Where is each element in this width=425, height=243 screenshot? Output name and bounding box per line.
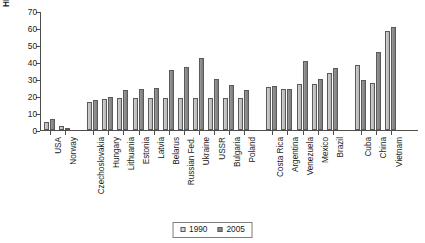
x-tick-mark <box>318 131 319 135</box>
bar-2005 <box>361 80 366 130</box>
bar-1990 <box>44 122 49 130</box>
x-axis-label: Mexico <box>321 137 330 163</box>
bar-2005 <box>376 52 381 130</box>
bar-2005 <box>287 89 292 130</box>
x-tick-mark <box>287 131 288 135</box>
legend-swatch-icon-2005 <box>218 227 223 232</box>
x-tick-mark <box>184 131 185 135</box>
bar-2005 <box>214 79 219 130</box>
bar-1990 <box>223 98 228 130</box>
bar-2005 <box>50 119 55 130</box>
x-axis-label: Argentina <box>291 137 300 172</box>
bar-2005 <box>184 67 189 130</box>
x-axis-label: Hungary <box>112 137 121 168</box>
bar-pair <box>281 12 296 130</box>
bar-pair <box>59 12 74 130</box>
x-axis-label: Ukraine <box>202 137 211 165</box>
bar-pair <box>297 12 312 130</box>
legend-item-1990: 1990 <box>180 225 207 234</box>
bar-pair <box>355 12 370 130</box>
bar-2005 <box>272 86 277 130</box>
plot-area: 010203040506070 <box>40 12 418 131</box>
bar-pair <box>133 12 148 130</box>
bar-pair <box>223 12 238 130</box>
x-tick-mark <box>93 131 94 135</box>
y-tick-label: 70 <box>28 8 37 16</box>
x-tick-mark <box>123 131 124 135</box>
bar-pair <box>385 12 400 130</box>
bar-pair <box>163 12 178 130</box>
x-tick-mark <box>272 131 273 135</box>
bar-2005 <box>391 27 396 130</box>
x-tick-mark <box>303 131 304 135</box>
x-axis-label: Vietnam <box>395 137 404 167</box>
bar-1990 <box>178 98 183 130</box>
x-axis-ticks <box>40 131 418 136</box>
bar-1990 <box>312 84 317 130</box>
x-tick-mark <box>391 131 392 135</box>
bar-1990 <box>163 98 168 130</box>
x-tick-mark <box>214 131 215 135</box>
y-tick-label: 10 <box>28 110 37 118</box>
x-tick-mark <box>169 131 170 135</box>
bar-series-container <box>41 12 418 130</box>
y-tick-label: 0 <box>32 127 37 135</box>
bar-1990 <box>385 31 390 130</box>
bar-pair <box>266 12 281 130</box>
bar-pair <box>87 12 102 130</box>
legend-label-1990: 1990 <box>189 225 207 234</box>
bar-1990 <box>148 98 153 130</box>
bar-2005 <box>123 90 128 130</box>
y-tick-label: 40 <box>28 59 37 67</box>
bar-pair <box>178 12 193 130</box>
bar-2005 <box>93 100 98 130</box>
x-axis-label: Lithuania <box>127 137 136 170</box>
y-tick-label: 60 <box>28 25 37 33</box>
chart-legend: 1990 2005 <box>172 222 253 238</box>
bar-1990 <box>102 99 107 130</box>
y-axis-title: HDI adjusted ratio <box>1 0 13 32</box>
x-tick-mark <box>139 131 140 135</box>
x-axis-label: USA <box>54 137 63 154</box>
bar-pair <box>193 12 208 130</box>
x-tick-mark <box>361 131 362 135</box>
legend-label-2005: 2005 <box>227 225 245 234</box>
bar-2005 <box>244 90 249 130</box>
x-axis-label: USSR <box>218 137 227 160</box>
bar-2005 <box>318 79 323 130</box>
x-axis-label: Russian Fed. <box>187 137 196 185</box>
bar-1990 <box>266 87 271 130</box>
x-axis-label: Brazil <box>336 137 345 157</box>
x-tick-mark <box>244 131 245 135</box>
x-tick-mark <box>65 131 66 135</box>
x-axis-label: Estonia <box>142 137 151 164</box>
y-tick-label: 30 <box>28 76 37 84</box>
bar-1990 <box>193 98 198 130</box>
y-tick-label: 50 <box>28 42 37 50</box>
x-axis-label: Czechoslovakia <box>97 137 106 194</box>
x-tick-mark <box>154 131 155 135</box>
bar-1990 <box>208 98 213 130</box>
x-axis-label: China <box>379 137 388 158</box>
bar-1990 <box>327 73 332 130</box>
bar-pair <box>208 12 223 130</box>
bar-1990 <box>238 98 243 130</box>
x-axis-label: Norway <box>69 137 78 165</box>
y-tick-label: 20 <box>28 93 37 101</box>
legend-item-2005: 2005 <box>218 225 245 234</box>
bar-2005 <box>333 68 338 130</box>
x-tick-mark <box>50 131 51 135</box>
x-axis-label: Latvia <box>157 137 166 159</box>
bar-2005 <box>108 97 113 130</box>
x-axis-label: Poland <box>248 137 257 163</box>
bar-1990 <box>117 98 122 130</box>
x-axis-labels: USANorwayCzechoslovakiaHungaryLithuaniaE… <box>40 137 418 209</box>
x-tick-mark <box>376 131 377 135</box>
bar-2005 <box>169 70 174 130</box>
x-tick-mark <box>199 131 200 135</box>
bar-pair <box>117 12 132 130</box>
bar-pair <box>102 12 117 130</box>
x-axis-label: Venezuela <box>306 137 315 175</box>
bar-pair <box>370 12 385 130</box>
bar-2005 <box>303 61 308 130</box>
